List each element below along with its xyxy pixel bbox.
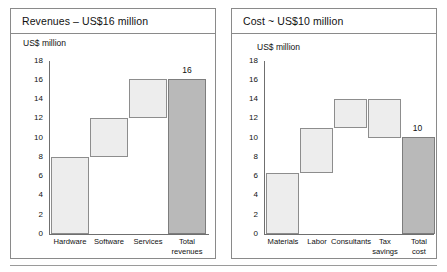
cost-panel-title: Cost ~ US$10 million — [232, 9, 436, 34]
revenues-y-axis-unit-label: US$ million — [23, 38, 66, 48]
revenues-ytick-0: 0 — [27, 230, 43, 238]
revenues-panel: Revenues – US$16 million US$ million 18 … — [10, 8, 216, 259]
revenues-plot-area: US$ million 18 16 14 12 10 8 6 4 2 0 16 — [11, 34, 215, 260]
bar-consultants[interactable] — [334, 99, 367, 128]
cost-ytick-0: 0 — [242, 230, 258, 238]
cost-ytick-2: 2 — [242, 211, 258, 219]
bar-value-total-cost: 10 — [400, 123, 435, 133]
revenues-ytick-6: 6 — [27, 172, 43, 180]
xlabel-total-revenues: Total revenues — [162, 237, 212, 256]
bottom-divider-rule — [10, 265, 437, 266]
bar-software[interactable] — [90, 118, 128, 157]
xlabel-tax-savings: Tax savings — [367, 237, 403, 256]
cost-ytick-8: 8 — [242, 153, 258, 161]
bar-total-cost[interactable] — [402, 137, 435, 234]
cost-plot-area: US$ million 18 16 14 12 10 8 6 4 2 0 10 — [232, 34, 436, 260]
revenues-x-axis-line — [49, 234, 209, 235]
cost-ytick-4: 4 — [242, 191, 258, 199]
cost-ytick-6: 6 — [242, 172, 258, 180]
revenues-panel-title: Revenues – US$16 million — [11, 9, 215, 34]
cost-y-axis-line — [264, 61, 265, 235]
cost-x-axis-line — [264, 234, 434, 235]
revenues-ytick-18: 18 — [27, 57, 43, 65]
cost-ytick-12: 12 — [242, 114, 258, 122]
cost-y-axis-unit-label: US$ million — [257, 42, 300, 52]
cost-ytick-18: 18 — [242, 57, 258, 65]
revenues-ytick-14: 14 — [27, 95, 43, 103]
cost-panel: Cost ~ US$10 million US$ million 18 16 1… — [231, 8, 437, 259]
bar-materials[interactable] — [266, 173, 299, 234]
revenues-ytick-16: 16 — [27, 76, 43, 84]
revenues-ytick-10: 10 — [27, 134, 43, 142]
figure-canvas: Revenues – US$16 million US$ million 18 … — [0, 0, 447, 272]
revenues-y-axis-line — [49, 61, 50, 235]
bar-total-revenues[interactable] — [168, 79, 206, 234]
bar-labor[interactable] — [300, 128, 333, 173]
revenues-ytick-2: 2 — [27, 211, 43, 219]
bar-tax-savings[interactable] — [368, 99, 401, 138]
cost-ytick-16: 16 — [242, 76, 258, 84]
cost-ytick-14: 14 — [242, 95, 258, 103]
revenues-ytick-8: 8 — [27, 153, 43, 161]
cost-ytick-10: 10 — [242, 134, 258, 142]
bar-hardware[interactable] — [51, 157, 89, 234]
bar-services[interactable] — [129, 79, 167, 118]
bar-value-total-revenues: 16 — [168, 65, 206, 75]
revenues-ytick-12: 12 — [27, 114, 43, 122]
revenues-ytick-4: 4 — [27, 191, 43, 199]
xlabel-total-cost: Total cost — [400, 237, 438, 256]
